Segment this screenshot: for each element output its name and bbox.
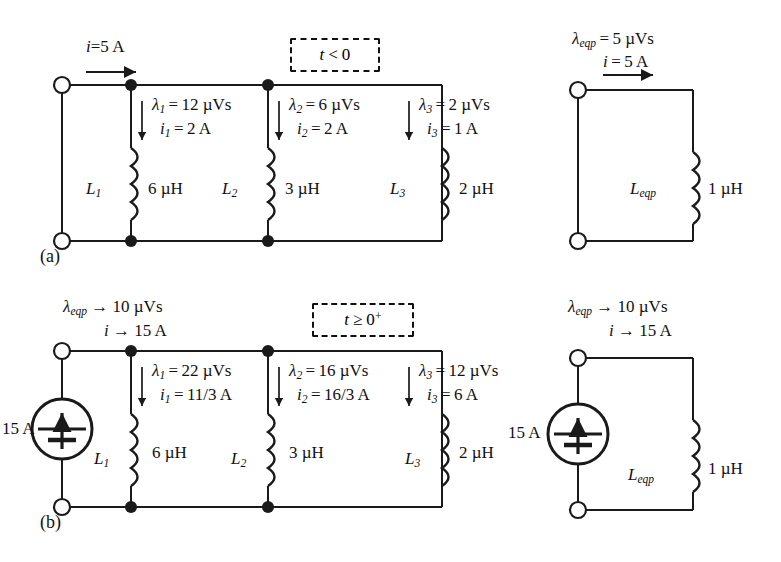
current-source-symbol-b-right	[548, 404, 608, 464]
panel-b-condition-box: t ≥ 0+	[312, 303, 414, 337]
panel-b-equivalent-source-value: 15 A	[508, 424, 541, 442]
panel-b-equivalent-inductance: 1 µH	[708, 460, 743, 478]
panel-b-terminal-flux-label: λeqp → 10 µVs	[63, 298, 163, 318]
panel-a-network	[54, 72, 449, 249]
panel-b-branch1-current-label: i1 = 11/3 A	[160, 386, 232, 406]
panel-b-equivalent-current-label: i → 15 A	[609, 322, 672, 340]
panel-a-equivalent-network	[570, 75, 700, 249]
panel-b-terminal-current-label: i → 15 A	[104, 322, 167, 340]
panel-b-equivalent-network	[548, 350, 700, 518]
panel-b-branch3-inductor-name: L3	[405, 450, 420, 470]
panel-b-condition-text: t ≥ 0+	[344, 310, 382, 330]
panel-b-branch1-flux-label: λ1 = 22 µVs	[152, 362, 232, 382]
panel-b-branch1-inductance: 6 µH	[152, 444, 187, 462]
panel-b-equivalent-flux-label: λeqp → 10 µVs	[568, 298, 668, 318]
panel-b-equivalent-inductor-name: Leqp	[628, 466, 654, 486]
panel-a-tag: (a)	[40, 247, 60, 266]
panel-b-branch2-flux-label: λ2 = 16 µVs	[289, 362, 369, 382]
panel-a-equivalent-flux-label: λeqp = 5 µVs	[572, 30, 654, 50]
panel-a-branch1-inductor-name: L1	[86, 180, 101, 200]
circuit-schematic-svg	[0, 0, 781, 562]
panel-a-branch1-current-label: i1 = 2 A	[160, 120, 211, 140]
panel-b-branch2-inductance: 3 µH	[289, 444, 324, 462]
panel-a-branch2-flux-label: λ2 = 6 µVs	[289, 96, 360, 116]
panel-a-branch1-inductance: 6 µH	[148, 180, 183, 198]
panel-a-branch2-inductance: 3 µH	[285, 180, 320, 198]
panel-a-condition-box: t < 0	[290, 38, 380, 72]
panel-a-source-current-label: i=5 A	[86, 38, 124, 56]
panel-a-branch1-flux-label: λ1 = 12 µVs	[152, 96, 232, 116]
panel-b-branch3-current-label: i3 = 6 A	[427, 386, 478, 406]
panel-a-branch3-flux-label: λ3 = 2 µVs	[419, 96, 490, 116]
current-source-symbol-b-left	[32, 399, 92, 459]
panel-b-branch2-inductor-name: L2	[231, 450, 246, 470]
panel-a-branch3-inductance: 2 µH	[459, 180, 494, 198]
panel-b-branch3-flux-label: λ3 = 12 µVs	[419, 362, 499, 382]
panel-a-condition-text: t < 0	[319, 45, 350, 65]
panel-b-branch2-current-label: i2 = 16/3 A	[297, 386, 370, 406]
panel-a-equivalent-current-label: i = 5 A	[603, 53, 648, 71]
circuit-figure: i=5 A t < 0 λ1 = 12 µVs i1 = 2 A L1 6 µH…	[0, 0, 781, 562]
panel-b-network	[32, 343, 449, 515]
panel-a-branch2-current-label: i2 = 2 A	[297, 120, 348, 140]
panel-a-branch3-current-label: i3 = 1 A	[427, 120, 478, 140]
panel-a-branch3-inductor-name: L3	[390, 180, 405, 200]
panel-a-branch2-inductor-name: L2	[222, 180, 237, 200]
panel-b-source-value: 15 A	[2, 420, 35, 438]
panel-a-equivalent-inductance: 1 µH	[708, 180, 743, 198]
panel-b-tag: (b)	[40, 513, 61, 532]
panel-b-branch1-inductor-name: L1	[94, 450, 109, 470]
panel-a-equivalent-inductor-name: Leqp	[630, 180, 656, 200]
panel-b-branch3-inductance: 2 µH	[459, 444, 494, 462]
